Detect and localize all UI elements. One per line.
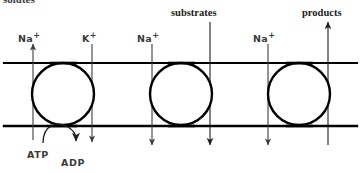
membrane-transport-diagram: solutes <box>0 0 360 173</box>
label-na-out: Na+ <box>18 34 40 44</box>
label-na-in-3: Na+ <box>253 34 275 44</box>
transporter-circles <box>32 63 330 125</box>
label-atp: ATP <box>27 150 49 160</box>
sodium-potassium-pump <box>32 63 94 125</box>
label-substrates: substrates <box>171 8 217 19</box>
sodium-product-exchanger <box>268 63 330 125</box>
sodium-substrate-cotransporter <box>150 63 212 125</box>
diagram-canvas <box>0 0 360 173</box>
label-k-in: K+ <box>82 34 97 44</box>
label-products: products <box>302 8 341 19</box>
label-na-in-2: Na+ <box>137 34 159 44</box>
label-adp: ADP <box>61 158 85 168</box>
